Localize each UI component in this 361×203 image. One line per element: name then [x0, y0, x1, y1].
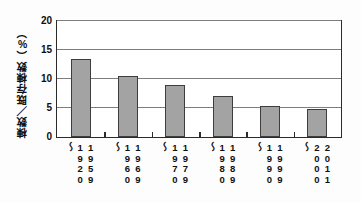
category-range-end: 1959 [86, 142, 96, 184]
category-range-separator: 〜 [254, 142, 264, 184]
plot-area [56, 20, 342, 138]
category-range-end: 1999 [275, 142, 285, 184]
x-axis-tickmark [294, 132, 296, 137]
category-range-start: 1990 [265, 142, 275, 184]
category-range-end: 1969 [133, 142, 143, 184]
y-axis-tick-labels: 05101520 [28, 18, 54, 138]
bar [165, 85, 185, 137]
category-range-start: 1970 [170, 142, 180, 184]
x-axis-category-label: 〜19701979 [161, 142, 187, 184]
y-axis-tick-label: 20 [41, 15, 52, 26]
category-range-start: 1920 [75, 142, 85, 184]
x-axis-category-label: 〜19901999 [256, 142, 282, 184]
category-range-separator: 〜 [112, 142, 122, 184]
bar [213, 96, 233, 137]
bar [260, 106, 280, 137]
bar [71, 59, 91, 137]
bars-layer [57, 21, 341, 137]
y-axis-tick-label: 5 [46, 102, 52, 113]
x-axis-tickmark [199, 132, 201, 137]
x-axis-tickmark [246, 132, 248, 137]
category-range-end: 2011 [322, 142, 332, 184]
y-axis-tick-label: 15 [41, 44, 52, 55]
category-range-separator: 〜 [301, 142, 311, 184]
category-range-end: 1979 [180, 142, 190, 184]
bar [307, 109, 327, 137]
y-axis-tick-label: 0 [46, 131, 52, 142]
category-range-start: 2000 [312, 142, 322, 184]
category-range-separator: 〜 [206, 142, 216, 184]
x-axis-category-label: 〜19601969 [114, 142, 140, 184]
category-range-separator: 〜 [159, 142, 169, 184]
x-axis-category-label: 〜20002011 [303, 142, 329, 184]
x-axis-category-label: 〜19801989 [209, 142, 235, 184]
x-axis-category-label: 〜19201959 [67, 142, 93, 184]
chart-screenshot: 棟数／既存棟数（%） 05101520 〜19201959〜19601969〜1… [0, 0, 361, 203]
category-range-start: 1960 [123, 142, 133, 184]
category-range-separator: 〜 [64, 142, 74, 184]
y-axis-title: 棟数／既存棟数（%） [6, 10, 28, 155]
x-axis-tickmark [152, 132, 154, 137]
bar [118, 76, 138, 137]
y-axis-tick-label: 10 [41, 73, 52, 84]
category-range-start: 1980 [217, 142, 227, 184]
x-axis-tickmark [104, 132, 106, 137]
x-axis-category-labels: 〜19201959〜19601969〜19701979〜19801989〜199… [56, 140, 342, 202]
category-range-end: 1989 [228, 142, 238, 184]
